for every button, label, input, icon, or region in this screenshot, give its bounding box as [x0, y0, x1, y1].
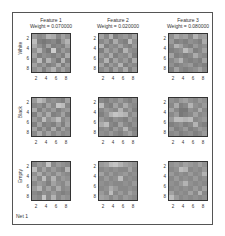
heatmap-cell — [132, 195, 137, 200]
heatmap-grid — [168, 97, 208, 137]
weight-label: Weight = 0.080000 — [158, 23, 218, 29]
heatmap-cell — [132, 67, 137, 72]
x-tick-label: 8 — [63, 204, 69, 209]
y-tick-label: 6 — [23, 184, 29, 189]
x-tick-label: 6 — [190, 140, 196, 145]
y-tick-label: 2 — [90, 100, 96, 105]
y-tick-label: 4 — [160, 110, 166, 115]
y-tick-label: 8 — [90, 66, 96, 71]
x-tick-label: 6 — [120, 140, 126, 145]
y-tick-label: 8 — [160, 66, 166, 71]
heatmap-cell — [65, 67, 70, 72]
x-tick-label: 4 — [110, 76, 116, 81]
x-tick-label: 4 — [180, 140, 186, 145]
x-tick-label: 2 — [100, 204, 106, 209]
y-tick-label: 4 — [160, 174, 166, 179]
heatmap-grid — [98, 33, 138, 73]
column-title: Feature 1Weight = 0.070000 — [21, 17, 81, 29]
y-tick-label: 2 — [160, 36, 166, 41]
y-tick-label: 8 — [160, 130, 166, 135]
figure-label: Net 1 — [16, 213, 28, 219]
heatmap-cell — [65, 195, 70, 200]
y-tick-label: 6 — [23, 56, 29, 61]
y-tick-label: 6 — [90, 184, 96, 189]
y-tick-label: 4 — [90, 46, 96, 51]
x-tick-label: 8 — [200, 204, 206, 209]
x-tick-label: 2 — [33, 76, 39, 81]
heatmap-cell — [202, 195, 207, 200]
heatmap-grid — [168, 33, 208, 73]
y-tick-label: 2 — [23, 36, 29, 41]
x-tick-label: 8 — [130, 76, 136, 81]
heatmap-grid — [98, 161, 138, 201]
x-tick-label: 6 — [120, 204, 126, 209]
x-tick-label: 2 — [170, 204, 176, 209]
y-tick-label: 4 — [90, 110, 96, 115]
heatmap-grid — [168, 161, 208, 201]
y-tick-label: 4 — [160, 46, 166, 51]
y-tick-label: 8 — [23, 66, 29, 71]
x-tick-label: 2 — [100, 76, 106, 81]
x-tick-label: 2 — [33, 204, 39, 209]
x-tick-label: 4 — [110, 204, 116, 209]
y-tick-label: 2 — [160, 164, 166, 169]
y-tick-label: 6 — [160, 56, 166, 61]
x-tick-label: 8 — [130, 140, 136, 145]
y-tick-label: 6 — [160, 184, 166, 189]
heatmap-cell — [202, 131, 207, 136]
x-tick-label: 6 — [120, 76, 126, 81]
x-tick-label: 2 — [100, 140, 106, 145]
y-tick-label: 2 — [160, 100, 166, 105]
x-tick-label: 8 — [63, 140, 69, 145]
x-tick-label: 6 — [53, 140, 59, 145]
heatmap-grid — [31, 97, 71, 137]
y-tick-label: 8 — [23, 130, 29, 135]
x-tick-label: 4 — [43, 140, 49, 145]
y-tick-label: 2 — [90, 164, 96, 169]
y-tick-label: 4 — [90, 174, 96, 179]
y-tick-label: 4 — [23, 46, 29, 51]
y-tick-label: 6 — [90, 56, 96, 61]
heatmap-cell — [132, 131, 137, 136]
y-tick-label: 6 — [23, 120, 29, 125]
y-tick-label: 4 — [23, 174, 29, 179]
x-tick-label: 6 — [190, 76, 196, 81]
y-tick-label: 2 — [23, 100, 29, 105]
x-tick-label: 6 — [53, 204, 59, 209]
heatmap-grid — [98, 97, 138, 137]
heatmap-cell — [202, 67, 207, 72]
x-tick-label: 2 — [33, 140, 39, 145]
y-tick-label: 2 — [23, 164, 29, 169]
column-title: Feature 3Weight = 0.080000 — [158, 17, 218, 29]
column-title: Feature 2Weight = 0.020000 — [88, 17, 148, 29]
x-tick-label: 8 — [200, 76, 206, 81]
x-tick-label: 6 — [53, 76, 59, 81]
x-tick-label: 2 — [170, 140, 176, 145]
x-tick-label: 8 — [130, 204, 136, 209]
x-tick-label: 6 — [190, 204, 196, 209]
y-tick-label: 2 — [90, 36, 96, 41]
heatmap-grid — [31, 33, 71, 73]
y-tick-label: 6 — [90, 120, 96, 125]
weight-label: Weight = 0.070000 — [21, 23, 81, 29]
y-tick-label: 4 — [23, 110, 29, 115]
x-tick-label: 4 — [180, 204, 186, 209]
x-tick-label: 8 — [200, 140, 206, 145]
heatmap-grid — [31, 161, 71, 201]
y-tick-label: 6 — [160, 120, 166, 125]
y-tick-label: 8 — [160, 194, 166, 199]
y-tick-label: 8 — [23, 194, 29, 199]
weight-label: Weight = 0.020000 — [88, 23, 148, 29]
y-tick-label: 8 — [90, 194, 96, 199]
x-tick-label: 4 — [180, 76, 186, 81]
x-tick-label: 4 — [43, 204, 49, 209]
x-tick-label: 8 — [63, 76, 69, 81]
x-tick-label: 4 — [43, 76, 49, 81]
y-tick-label: 8 — [90, 130, 96, 135]
x-tick-label: 2 — [170, 76, 176, 81]
heatmap-cell — [65, 131, 70, 136]
x-tick-label: 4 — [110, 140, 116, 145]
